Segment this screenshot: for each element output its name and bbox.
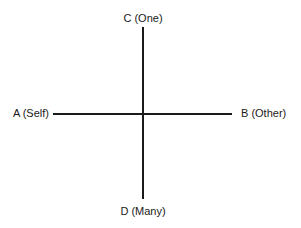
axis-label-top: C (One) bbox=[123, 12, 162, 24]
axis-label-right: B (Other) bbox=[241, 107, 286, 119]
horizontal-axis-line bbox=[53, 113, 232, 115]
axis-label-bottom: D (Many) bbox=[120, 205, 165, 217]
quadrant-diagram: C (One) D (Many) A (Self) B (Other) bbox=[0, 0, 301, 228]
axis-label-left: A (Self) bbox=[13, 107, 49, 119]
